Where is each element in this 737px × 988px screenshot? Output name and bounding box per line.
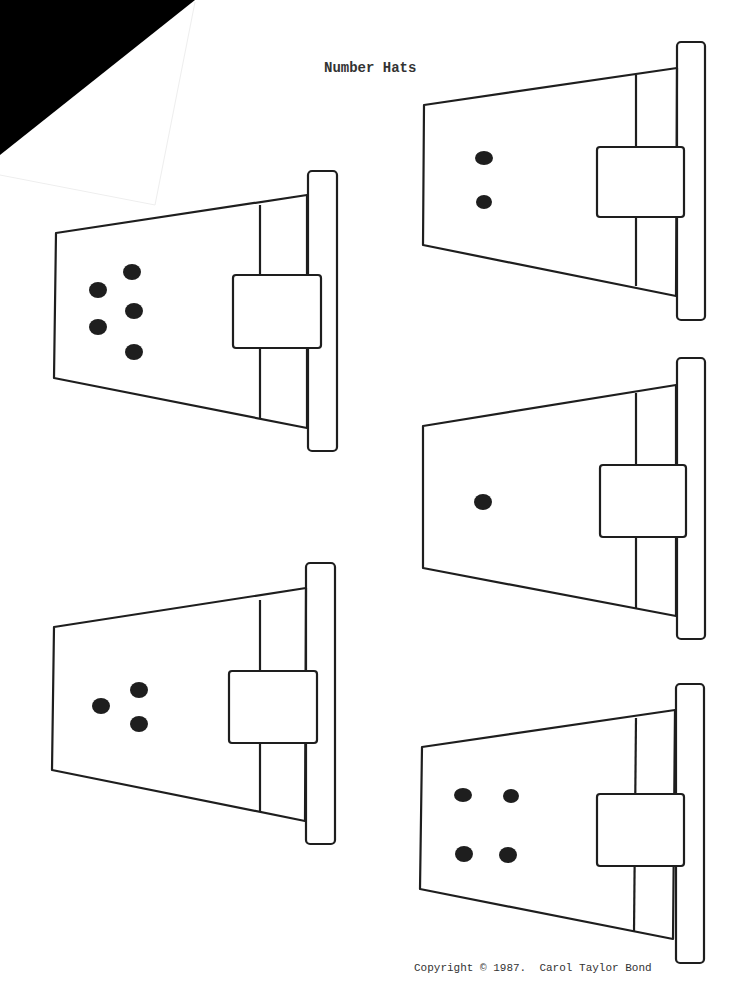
copyright-notice: Copyright © 1987. Carol Taylor Bond: [414, 962, 652, 974]
dot-group: [454, 788, 519, 863]
